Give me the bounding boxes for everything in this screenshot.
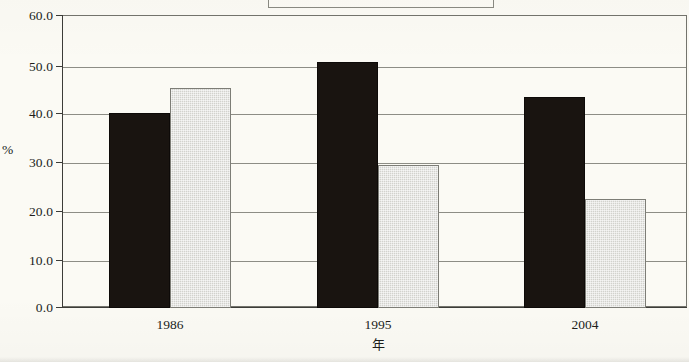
x-tick-label-2004: 2004: [540, 318, 630, 332]
x-tick-label-1995: 1995: [333, 318, 423, 332]
bar-1986-light: [170, 88, 231, 308]
bars-layer: [0, 0, 689, 362]
page-bottom-shadow: [0, 357, 689, 362]
bar-1986-dark: [109, 113, 170, 308]
bar-2004-light: [585, 199, 646, 308]
x-tick-label-1986: 1986: [125, 318, 215, 332]
chart-figure: 60.0 50.0 40.0 30.0 20.0 10.0 0.0 % 1986…: [0, 0, 689, 362]
bar-1995-dark: [317, 62, 378, 308]
x-axis-title: 年: [333, 338, 423, 351]
bar-1995-light: [378, 165, 439, 308]
bar-2004-dark: [524, 97, 585, 308]
